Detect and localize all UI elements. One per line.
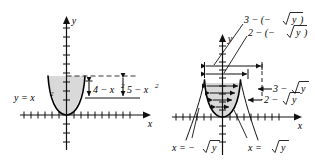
right-y-axis-label: y	[227, 33, 233, 44]
right-annotation-upper-inner-radicand: y	[295, 27, 301, 38]
right-y-axis-arrow-icon	[219, 34, 226, 42]
figure-canvas: x y y = x 2 4 − x 2 5 − x 2	[0, 0, 315, 168]
right-annotation-upper-inner-tail: )	[303, 27, 308, 39]
left-x-axis-label: x	[147, 118, 153, 129]
left-y-axis-label: y	[71, 15, 77, 26]
left-panel: x y y = x 2 4 − x 2 5 − x 2	[13, 15, 159, 150]
right-curve-label-left-radicand: y	[211, 142, 217, 153]
left-curve-label-exponent: 2	[50, 90, 54, 98]
right-annotation-lower-outer-lead: 3 −	[272, 83, 287, 94]
left-annotation-inner-length: 4 − x 2	[93, 82, 125, 95]
right-x-axis-label: x	[297, 120, 303, 131]
right-annotation-upper-outer-radicand: y	[291, 14, 297, 25]
left-curve-label-base: y = x	[13, 92, 35, 103]
right-annotation-lower-inner-radicand: y	[291, 94, 297, 105]
right-curve-label-right-branch: x = y	[247, 141, 289, 154]
left-annotation-outer-exponent: 2	[155, 82, 159, 90]
right-curve-label-right-radicand: y	[280, 142, 286, 153]
math-figure: x y y = x 2 4 − x 2 5 − x 2	[0, 0, 315, 168]
right-parabola-right-tail	[241, 80, 259, 140]
right-annotation-lower-inner-lead: 2 −	[264, 94, 278, 105]
left-annotation-outer-length: 5 − x 2	[127, 82, 159, 95]
right-panel: x y 3 − (− y ) 2 − (− y ) 3 − y 2 − y	[171, 13, 309, 156]
left-y-axis-arrow-icon	[63, 16, 70, 24]
right-annotation-upper-outer: 3 − (− y )	[243, 13, 304, 27]
left-annotation-inner-exponent: 2	[121, 82, 125, 90]
right-annotation-upper-outer-tail: )	[299, 14, 304, 26]
right-curve-label-left-lead: x = −	[171, 142, 195, 153]
left-annotation-outer-base: 5 − x	[127, 84, 149, 95]
left-annotation-inner-base: 4 − x	[93, 84, 115, 95]
right-curve-label-right-lead: x =	[247, 142, 262, 153]
right-curve-label-left-branch: x = − y	[171, 141, 220, 154]
right-annotation-upper-inner-lead: 2 − (−	[248, 27, 275, 39]
right-annotation-lower-inner: 2 − y	[264, 93, 300, 106]
right-annotation-lower-outer-radicand: y	[300, 83, 306, 94]
right-upper-outer-leader	[214, 24, 243, 65]
left-curve-label: y = x 2	[13, 90, 54, 103]
right-annotation-upper-outer-lead: 3 − (−	[243, 14, 271, 26]
right-parabola-left-tail	[186, 80, 205, 140]
right-right-branch-leader	[234, 110, 247, 138]
right-annotation-upper-inner: 2 − (− y )	[248, 26, 308, 40]
